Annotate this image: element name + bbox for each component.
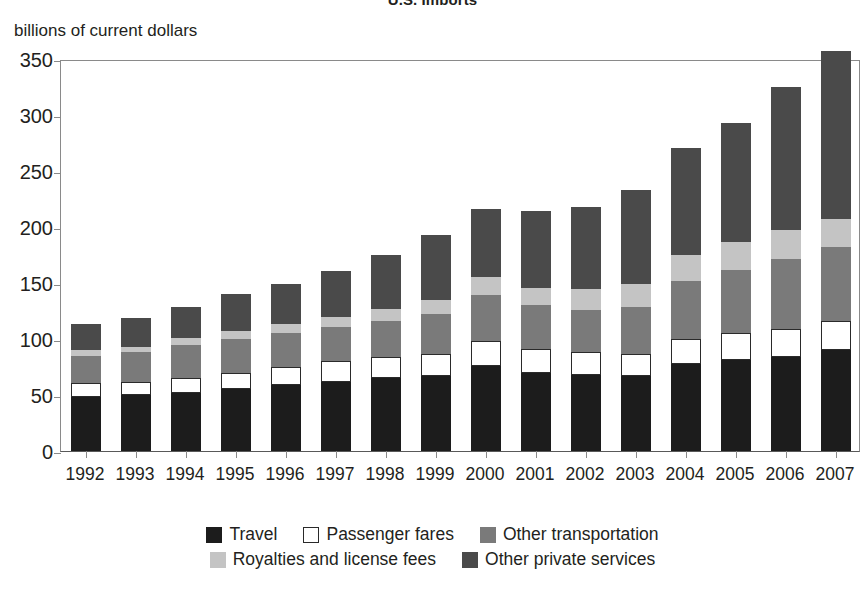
- bar-segment: [421, 300, 451, 315]
- bar-segment: [671, 281, 701, 339]
- bar-stack: [571, 207, 601, 451]
- bar-segment: [771, 230, 801, 259]
- bar-stack: [621, 190, 651, 451]
- bar-segment: [471, 209, 501, 277]
- legend-label: Travel: [229, 526, 277, 544]
- legend-swatch-passenger-fares-icon: [303, 527, 319, 543]
- bar-segment: [571, 289, 601, 310]
- legend-entry[interactable]: Travel: [206, 526, 277, 544]
- legend-row-2: Royalties and license feesOther private …: [0, 547, 865, 572]
- y-axis-caption: billions of current dollars: [14, 21, 197, 41]
- bar-segment: [121, 395, 151, 451]
- x-axis-tick: [236, 451, 237, 458]
- legend-entry[interactable]: Passenger fares: [303, 526, 453, 544]
- x-axis-tick: [286, 451, 287, 458]
- legend-entry[interactable]: Other transportation: [480, 526, 659, 544]
- bar-stack: [71, 324, 101, 451]
- bar-segment: [371, 255, 401, 309]
- bar-segment: [621, 190, 651, 284]
- bar-stack: [721, 123, 751, 451]
- y-axis-tick-label: 50: [0, 386, 53, 406]
- y-axis-tick: [54, 285, 61, 286]
- y-axis-tick-label: 100: [0, 330, 53, 350]
- x-axis-tick-label: 2007: [804, 464, 865, 485]
- bar-segment: [171, 338, 201, 345]
- bar-segment: [471, 341, 501, 366]
- bar-segment: [521, 211, 551, 287]
- bar-stack: [421, 235, 451, 451]
- bar-segment: [421, 235, 451, 300]
- y-axis-tick-label: 300: [0, 106, 53, 126]
- bar-segment: [621, 284, 651, 306]
- bar-segment: [71, 324, 101, 350]
- bar-segment: [321, 382, 351, 451]
- bar-segment: [521, 349, 551, 373]
- legend-row-1: TravelPassenger faresOther transportatio…: [0, 522, 865, 547]
- bar-segment: [471, 277, 501, 295]
- bar-segment: [721, 360, 751, 451]
- bar-segment: [671, 364, 701, 451]
- bar-segment: [771, 87, 801, 230]
- bar-stack: [671, 148, 701, 451]
- y-axis-tick-label: 0: [0, 442, 53, 462]
- bar-segment: [721, 333, 751, 360]
- bar-segment: [821, 219, 851, 247]
- y-axis-tick: [54, 341, 61, 342]
- legend-label: Passenger fares: [326, 526, 453, 544]
- bar-stack: [471, 209, 501, 451]
- bar-segment: [71, 397, 101, 451]
- legend-swatch-travel-icon: [206, 527, 222, 543]
- bar-segment: [321, 361, 351, 381]
- bar-segment: [771, 357, 801, 451]
- bar-segment: [471, 295, 501, 341]
- legend-label: Other transportation: [503, 526, 659, 544]
- bar-stack: [371, 255, 401, 451]
- bar-segment: [221, 294, 251, 331]
- bar-stack: [171, 307, 201, 451]
- bar-segment: [71, 383, 101, 398]
- bar-segment: [821, 51, 851, 219]
- bar-segment: [271, 385, 301, 451]
- bar-segment: [321, 271, 351, 317]
- legend-label: Royalties and license fees: [233, 551, 436, 569]
- y-axis-tick: [54, 117, 61, 118]
- bars-layer: [61, 61, 859, 451]
- legend-entry[interactable]: Royalties and license fees: [210, 551, 436, 569]
- y-axis-tick-label: 150: [0, 274, 53, 294]
- stacked-bar-chart-figure: U.S. Imports billions of current dollars…: [0, 0, 865, 591]
- chart-title: U.S. Imports: [0, 0, 865, 5]
- y-axis-tick-label: 250: [0, 162, 53, 182]
- bar-segment: [621, 354, 651, 376]
- y-axis-tick-label: 200: [0, 218, 53, 238]
- bar-segment: [171, 307, 201, 338]
- bar-segment: [171, 378, 201, 393]
- bar-segment: [171, 393, 201, 451]
- x-axis-tick: [136, 451, 137, 458]
- bar-stack: [771, 87, 801, 451]
- bar-segment: [821, 247, 851, 321]
- x-axis-tick: [586, 451, 587, 458]
- legend-swatch-other-private-services-icon: [462, 552, 478, 568]
- x-axis-tick: [686, 451, 687, 458]
- bar-segment: [571, 310, 601, 353]
- bar-segment: [371, 321, 401, 357]
- bar-segment: [721, 242, 751, 270]
- bar-segment: [721, 123, 751, 242]
- bar-segment: [71, 356, 101, 383]
- bar-segment: [121, 352, 151, 381]
- bar-segment: [121, 382, 151, 395]
- x-axis-tick: [86, 451, 87, 458]
- bar-stack: [271, 284, 301, 451]
- bar-segment: [471, 366, 501, 451]
- bar-segment: [421, 354, 451, 376]
- bar-stack: [121, 318, 151, 451]
- legend-entry[interactable]: Other private services: [462, 551, 655, 569]
- bar-segment: [421, 376, 451, 451]
- bar-segment: [521, 305, 551, 349]
- bar-stack: [221, 294, 251, 451]
- plot-area: [60, 60, 860, 452]
- legend-swatch-other-transportation-icon: [480, 527, 496, 543]
- x-axis-tick: [486, 451, 487, 458]
- bar-segment: [221, 373, 251, 390]
- bar-segment: [571, 352, 601, 374]
